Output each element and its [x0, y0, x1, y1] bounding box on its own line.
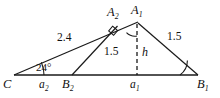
vertex-label-B1-text: B: [197, 77, 205, 91]
altitude-label-h: h: [142, 46, 148, 58]
vertex-label-A1-text: A: [131, 3, 139, 17]
side-length-label-2-4: 2.4: [57, 32, 71, 44]
side-length-label-right-1-5-text: 1.5: [167, 30, 181, 42]
vertex-label-B2: B2: [62, 78, 74, 91]
vertex-label-B1-subscript: 1: [205, 84, 209, 93]
vertex-label-B1: B1: [197, 78, 209, 91]
side-length-label-middle-1-5-text: 1.5: [104, 45, 118, 57]
vertex-label-A2-subscript: 2: [115, 12, 119, 21]
vertex-label-A1-subscript: 1: [139, 10, 143, 19]
base-segment-label-a1: a1: [130, 79, 139, 91]
base-segment-label-a1-text: a: [130, 78, 136, 90]
side-length-label-right-1-5: 1.5: [167, 31, 181, 43]
vertex-label-A2-text: A: [107, 5, 115, 19]
vertex-label-B2-subscript: 2: [70, 84, 74, 93]
angle-arc-at-A1: [127, 33, 138, 37]
base-segment-label-a2: a2: [39, 79, 48, 91]
vertex-label-C-text: C: [3, 77, 11, 91]
altitude-label-h-text: h: [142, 45, 148, 59]
side-length-label-2-4-text: 2.4: [57, 31, 71, 43]
triangle-diagram-figure: A2 A1 C B2 B1 2.4 1.5 1.5 h a2 a1 24°: [0, 0, 220, 98]
vertex-label-B2-text: B: [62, 77, 70, 91]
base-segment-label-a1-subscript: 1: [136, 85, 140, 93]
base-segment-label-a2-subscript: 2: [45, 85, 49, 93]
side-line-C-A1: [14, 22, 138, 75]
angle-label-24-degrees-text: 24°: [36, 61, 51, 73]
vertex-label-C: C: [3, 78, 11, 91]
angle-label-24-degrees: 24°: [36, 62, 51, 73]
vertex-label-A1: A1: [131, 4, 143, 17]
vertex-label-A2: A2: [107, 6, 119, 19]
base-segment-label-a2-text: a: [39, 78, 45, 90]
side-length-label-middle-1-5: 1.5: [104, 46, 118, 58]
